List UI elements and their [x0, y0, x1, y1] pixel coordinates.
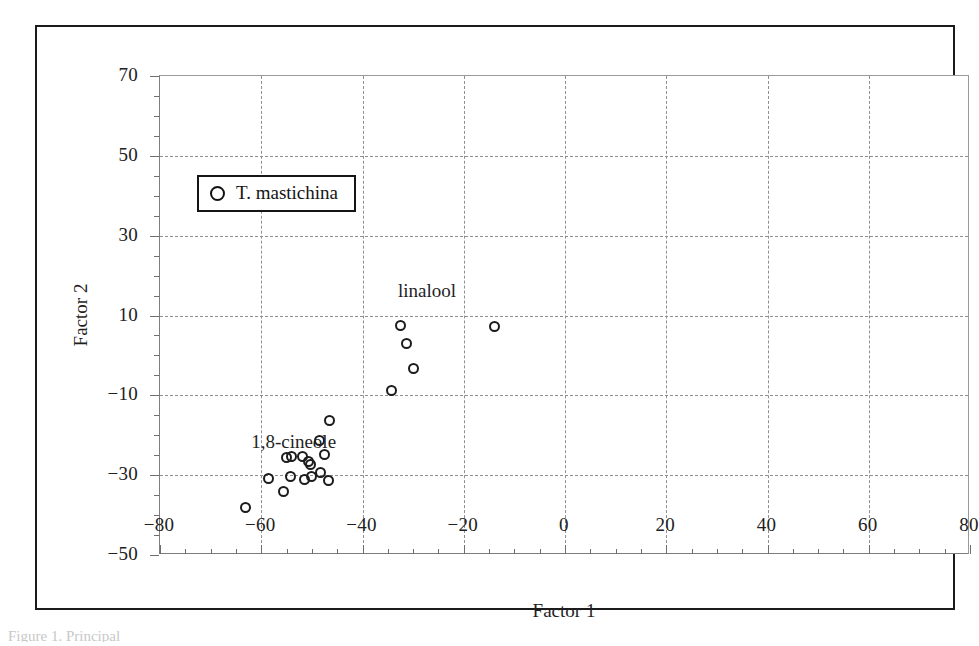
- x-tick-minor: [742, 549, 743, 554]
- x-tick-label: 60: [858, 514, 878, 536]
- x-tick-minor: [540, 549, 541, 554]
- x-tick-label: 40: [757, 514, 777, 536]
- x-tick-major: [666, 545, 667, 554]
- scatter-point: [408, 363, 419, 374]
- scatter-point: [263, 473, 274, 484]
- y-tick-label: 10: [118, 304, 138, 326]
- y-tick-minor: [154, 495, 159, 496]
- x-tick-major: [464, 545, 465, 554]
- x-tick-label: −80: [144, 514, 175, 536]
- legend: T. mastichina: [197, 175, 356, 212]
- y-tick-label: 30: [118, 224, 138, 246]
- y-axis-label: Factor 2: [70, 284, 92, 347]
- y-tick-major: [150, 316, 159, 317]
- x-tick-minor: [489, 549, 490, 554]
- y-tick-minor: [154, 435, 159, 436]
- gridline-vertical: [565, 76, 566, 553]
- scatter-point: [401, 338, 412, 349]
- y-tick-minor: [154, 335, 159, 336]
- y-tick-major: [150, 395, 159, 396]
- x-tick-minor: [388, 549, 389, 554]
- y-tick-minor: [154, 455, 159, 456]
- y-tick-label: 70: [118, 64, 138, 86]
- gridline-vertical: [464, 76, 465, 553]
- x-tick-label: 0: [559, 514, 569, 536]
- y-tick-major: [150, 555, 159, 556]
- x-tick-minor: [413, 549, 414, 554]
- gridline-vertical: [869, 76, 870, 553]
- x-tick-minor: [818, 549, 819, 554]
- x-tick-minor: [641, 549, 642, 554]
- y-tick-minor: [154, 276, 159, 277]
- gridline-vertical: [363, 76, 364, 553]
- y-tick-minor: [154, 375, 159, 376]
- x-tick-major: [869, 545, 870, 554]
- x-tick-minor: [843, 549, 844, 554]
- y-tick-minor: [154, 216, 159, 217]
- open-circle-marker-icon: [210, 186, 225, 201]
- x-tick-minor: [514, 549, 515, 554]
- y-tick-major: [150, 76, 159, 77]
- y-tick-minor: [154, 196, 159, 197]
- x-tick-minor: [337, 549, 338, 554]
- y-tick-label: −50: [107, 543, 138, 565]
- gridline-vertical: [261, 76, 262, 553]
- x-tick-minor: [236, 549, 237, 554]
- x-axis-label: Factor 1: [159, 600, 969, 622]
- y-tick-minor: [154, 256, 159, 257]
- scatter-point: [324, 415, 335, 426]
- scatter-point: [386, 385, 397, 396]
- gridline-vertical: [768, 76, 769, 553]
- x-tick-minor: [211, 549, 212, 554]
- y-tick-minor: [154, 136, 159, 137]
- scatter-point: [305, 459, 316, 470]
- x-tick-minor: [692, 549, 693, 554]
- x-tick-major: [565, 545, 566, 554]
- y-tick-minor: [154, 415, 159, 416]
- scatter-point: [395, 320, 406, 331]
- x-tick-major: [768, 545, 769, 554]
- y-tick-label: 50: [118, 144, 138, 166]
- gridline-horizontal: [160, 236, 968, 237]
- x-tick-major: [970, 545, 971, 554]
- y-tick-minor: [154, 116, 159, 117]
- cluster-annotation: linalool: [398, 280, 456, 302]
- y-tick-minor: [154, 176, 159, 177]
- y-tick-label: −10: [107, 383, 138, 405]
- y-tick-major: [150, 236, 159, 237]
- y-tick-major: [150, 156, 159, 157]
- x-tick-minor: [438, 549, 439, 554]
- x-tick-major: [363, 545, 364, 554]
- scatter-point: [278, 486, 289, 497]
- x-tick-major: [261, 545, 262, 554]
- scatter-point: [285, 471, 296, 482]
- y-tick-major: [150, 475, 159, 476]
- cluster-annotation: 1,8-cineole: [251, 431, 336, 453]
- figure-frame: Section Mastichina linalool1,8-cineole −…: [35, 25, 955, 610]
- x-tick-major: [160, 545, 161, 554]
- plot-area: linalool1,8-cineole: [159, 75, 969, 554]
- x-tick-minor: [590, 549, 591, 554]
- gridline-horizontal: [160, 475, 968, 476]
- x-tick-minor: [287, 549, 288, 554]
- x-tick-minor: [919, 549, 920, 554]
- x-tick-minor: [894, 549, 895, 554]
- scatter-point: [240, 502, 251, 513]
- x-tick-minor: [717, 549, 718, 554]
- x-tick-label: 20: [655, 514, 675, 536]
- gridline-horizontal: [160, 156, 968, 157]
- x-tick-minor: [185, 549, 186, 554]
- gridline-horizontal: [160, 395, 968, 396]
- gridline-horizontal: [160, 316, 968, 317]
- legend-label: T. mastichina: [236, 182, 338, 204]
- y-tick-minor: [154, 355, 159, 356]
- x-tick-label: −60: [245, 514, 276, 536]
- x-tick-minor: [945, 549, 946, 554]
- x-tick-label: −20: [447, 514, 478, 536]
- y-tick-minor: [154, 96, 159, 97]
- gridline-vertical: [666, 76, 667, 553]
- x-tick-minor: [312, 549, 313, 554]
- x-tick-label: −40: [346, 514, 377, 536]
- x-tick-minor: [616, 549, 617, 554]
- y-tick-label: −30: [107, 463, 138, 485]
